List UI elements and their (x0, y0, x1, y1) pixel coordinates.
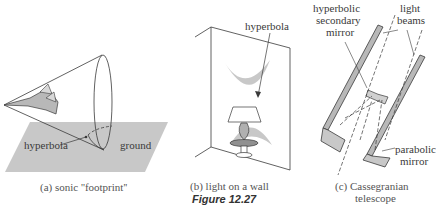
figure-title: Figure 12.27 (192, 193, 256, 205)
label-hyperbola-b: hyperbola (245, 20, 289, 32)
label-secondary-mirror-2: secondary (316, 14, 361, 26)
label-secondary-mirror-1: hyperbolic (313, 2, 360, 14)
caption-c-line2: telescope (355, 192, 396, 205)
caption-a: (a) sonic ''footprint'' (40, 181, 127, 194)
label-parabolic-mirror-2: mirror (400, 155, 428, 167)
label-light-beams-2: beams (397, 14, 425, 26)
label-ground: ground (120, 139, 151, 151)
label-light-beams-1: light (400, 2, 420, 14)
airplane-icon (4, 84, 58, 114)
caption-b: (b) light on a wall (190, 180, 269, 193)
label-parabolic-mirror-1: parabolic (395, 143, 436, 155)
label-hyperbola-a: hyperbola (24, 139, 68, 151)
label-secondary-mirror-3: mirror (326, 26, 354, 38)
secondary-mirror (366, 90, 388, 104)
